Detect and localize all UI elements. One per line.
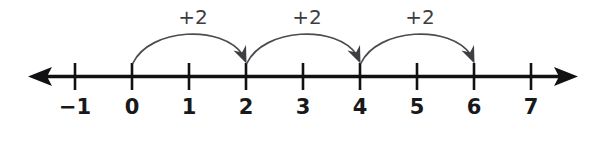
hop-arc-path xyxy=(361,34,471,63)
number-line-figure: −1 0 1 2 3 4 5 6 7 +2 +2 +2 xyxy=(0,0,602,141)
hop-arc-path xyxy=(133,34,243,63)
hop-arrow-2: +2 xyxy=(247,5,361,64)
tick-label: 0 xyxy=(125,95,140,119)
hop-label: +2 xyxy=(405,5,434,29)
tick-label: 4 xyxy=(353,95,368,119)
tick-label: −1 xyxy=(59,95,91,119)
hop-label: +2 xyxy=(178,5,207,29)
tick-label: 5 xyxy=(410,95,425,119)
tick-label: 7 xyxy=(524,95,539,119)
tick-label: 6 xyxy=(467,95,482,119)
tick-label: 1 xyxy=(182,95,197,119)
hop-arrow-1: +2 xyxy=(133,5,247,64)
number-line-canvas: −1 0 1 2 3 4 5 6 7 +2 +2 +2 xyxy=(0,0,602,141)
hop-label: +2 xyxy=(292,5,321,29)
hop-arrow-3: +2 xyxy=(361,5,475,64)
tick-label: 3 xyxy=(296,95,311,119)
tick-label-group: −1 0 1 2 3 4 5 6 7 xyxy=(59,95,538,119)
tick-label: 2 xyxy=(239,95,254,119)
hop-arc-path xyxy=(247,34,357,63)
